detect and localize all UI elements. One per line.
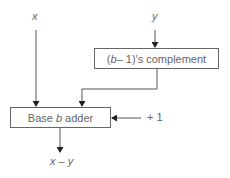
complement-box: (b – 1)'s complement xyxy=(94,48,219,69)
output-label: x – y xyxy=(50,155,73,167)
y-input-label: y xyxy=(152,10,158,22)
adder-suffix: adder xyxy=(65,112,93,124)
adder-box: Base b adder xyxy=(10,107,111,128)
adder-var: b xyxy=(56,112,62,124)
complement-suffix: – 1)'s complement xyxy=(117,53,207,65)
connector-lines xyxy=(0,0,230,178)
plus-one-label: + 1 xyxy=(147,111,163,123)
adder-prefix: Base xyxy=(28,112,53,124)
x-input-label: x xyxy=(32,10,38,22)
complement-to-adder-arrow xyxy=(82,68,157,106)
